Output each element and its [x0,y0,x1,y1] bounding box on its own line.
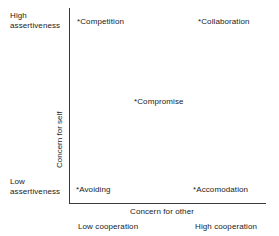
x-axis-low-label: Low cooperation [78,222,138,232]
y-axis-low-label-line2: assertiveness [10,187,60,197]
y-axis-high-label-line1: High [10,11,60,21]
y-axis-low-label: Low assertiveness [10,177,60,197]
y-axis-low-label-line1: Low [10,177,60,187]
x-axis-line [69,203,266,204]
x-axis-high-label: High cooperation [195,222,257,232]
y-axis-high-label: High assertiveness [10,11,60,31]
x-axis-title: Concern for other [130,207,194,217]
y-axis-high-label-line2: assertiveness [10,21,60,31]
data-point-avoiding: *Avoiding [76,185,111,195]
y-axis-line [69,8,70,204]
conflict-style-grid: High assertiveness Low assertiveness Con… [0,0,279,236]
y-axis-title: Concern for self [54,48,66,168]
data-point-collaboration: *Collaboration [198,17,250,27]
data-point-competition: *Competition [77,17,124,27]
data-point-compromise: *Compromise [134,97,184,107]
data-point-accomodation: *Accomodation [193,185,248,195]
